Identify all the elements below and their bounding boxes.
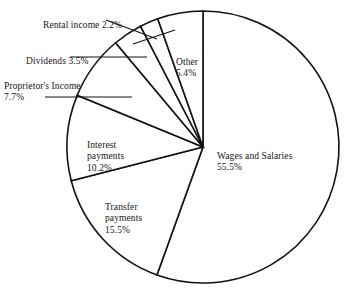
slice-label-transfer-payments: Transfer payments 15.5% <box>105 190 142 248</box>
slice-label-interest-payments: Interest payments 10.2% <box>87 128 124 186</box>
slice-label-other: Other 5.4% <box>176 45 198 91</box>
slice-label-wages-and-salaries: Wages and Salaries 55.5% <box>217 139 292 185</box>
slice-label-dividends: Dividends 3.5% <box>26 44 89 67</box>
slice-label-wages-and-salaries-name: Wages and Salaries <box>217 151 292 161</box>
slice-label-rental-income: Rental income 2.2% <box>43 8 122 31</box>
slice-label-proprietors-income-name: Proprietor's Income <box>4 81 81 91</box>
slice-label-rental-income-text: Rental income 2.2% <box>43 20 122 30</box>
pie-chart-figure: Rental income 2.2% Dividends 3.5% Propri… <box>0 0 344 294</box>
slice-label-proprietors-income: Proprietor's Income 7.7% <box>4 69 81 115</box>
slice-label-other-name: Other <box>176 57 198 67</box>
slice-label-other-percent: 5.4% <box>176 68 198 80</box>
slice-label-transfer-payments-name: Transfer payments <box>105 202 142 224</box>
slice-label-dividends-text: Dividends 3.5% <box>26 56 89 66</box>
slice-label-interest-payments-name: Interest payments <box>87 140 124 162</box>
slice-label-proprietors-income-percent: 7.7% <box>4 92 81 104</box>
slice-label-transfer-payments-percent: 15.5% <box>105 225 142 237</box>
slice-label-wages-and-salaries-percent: 55.5% <box>217 162 292 174</box>
slice-label-interest-payments-percent: 10.2% <box>87 163 124 175</box>
